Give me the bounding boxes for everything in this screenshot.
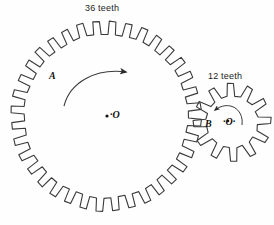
large-gear-center-dot bbox=[105, 114, 108, 117]
small-gear-name-label: B bbox=[205, 118, 212, 129]
large-gear-center-label: ·O bbox=[110, 109, 120, 120]
large-gear-teeth-label: 36 teeth bbox=[85, 3, 119, 13]
large-gear-name-label: A bbox=[49, 70, 56, 81]
large-gear-rotation-arrow bbox=[64, 71, 126, 106]
gear-diagram-svg bbox=[0, 0, 274, 225]
small-gear-center-label: ·O· bbox=[223, 116, 235, 127]
small-gear-teeth-label: 12 teeth bbox=[208, 71, 242, 81]
gear-diagram-canvas: 36 teeth 12 teeth A ·O B ·O· bbox=[0, 0, 274, 225]
